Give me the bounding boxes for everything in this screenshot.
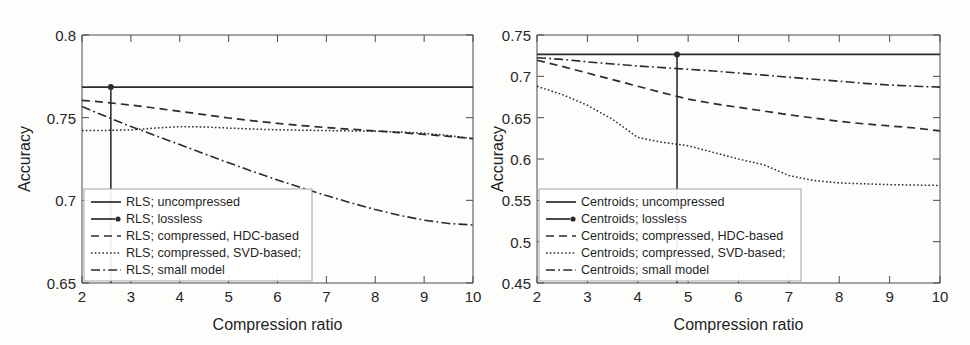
x-tick-label-left-4: 6 [273, 288, 281, 305]
x-tick-label-right-5: 7 [785, 288, 793, 305]
series-line-right-3 [537, 86, 940, 185]
y-axis-title-right: Accuracy [489, 126, 506, 192]
x-axis-title-right: Compression ratio [674, 316, 804, 333]
legend-label-left-0: RLS; uncompressed [126, 195, 240, 209]
legend-marker-dot-icon [115, 216, 120, 221]
x-tick-label-left-8: 10 [465, 288, 482, 305]
x-tick-label-right-3: 5 [684, 288, 692, 305]
legend-label-right-4: Centroids; small model [581, 263, 709, 277]
y-tick-label-right-4: 0.65 [502, 110, 531, 127]
legend-label-left-1: RLS; lossless [126, 212, 202, 226]
y-tick-label-right-0: 0.45 [502, 275, 531, 292]
y-tick-label-right-3: 0.6 [510, 151, 531, 168]
lossless-marker-dot-icon [674, 51, 680, 57]
x-tick-label-right-1: 3 [583, 288, 591, 305]
x-tick-label-left-3: 5 [224, 288, 232, 305]
legend-label-right-2: Centroids; compressed, HDC-based [581, 229, 783, 243]
x-tick-label-left-0: 2 [78, 288, 86, 305]
y-tick-label-right-1: 0.5 [510, 234, 531, 251]
legend-item-right-3[interactable]: Centroids; compressed, SVD-based; [546, 246, 785, 260]
x-tick-label-left-1: 3 [127, 288, 135, 305]
x-tick-label-left-7: 9 [420, 288, 428, 305]
series-line-left-2 [82, 100, 473, 138]
y-tick-label-left-3: 0.8 [55, 27, 76, 44]
y-tick-label-right-6: 0.75 [502, 27, 531, 44]
x-tick-label-right-6: 8 [835, 288, 843, 305]
chart-svg-left: 0.8 0.75 0.7 0.65 [0, 0, 485, 345]
chart-panel-left: 0.8 0.75 0.7 0.65 [0, 0, 485, 345]
figure-container: 0.8 0.75 0.7 0.65 [0, 0, 970, 345]
legend-marker-dot-icon [570, 216, 575, 221]
legend-label-left-2: RLS; compressed, HDC-based [126, 229, 299, 243]
y-axis-title-left: Accuracy [16, 126, 33, 192]
x-tick-label-right-4: 6 [734, 288, 742, 305]
y-tick-label-right-5: 0.7 [510, 68, 531, 85]
x-tick-label-left-5: 7 [322, 288, 330, 305]
lossless-marker-dot-icon [108, 84, 114, 90]
legend-label-left-4: RLS; small model [126, 263, 225, 277]
y-tick-label-left-0: 0.65 [47, 275, 76, 292]
x-tick-label-right-8: 10 [932, 288, 949, 305]
series-line-left-3 [82, 127, 473, 139]
series-line-right-4 [537, 58, 940, 87]
y-tick-label-right-2: 0.55 [502, 192, 531, 209]
chart-panel-right: 0.75 0.7 0.65 0.6 0.55 0.5 0.45 [485, 0, 970, 345]
x-tick-label-left-6: 8 [371, 288, 379, 305]
x-tick-label-left-2: 4 [176, 288, 184, 305]
legend-left: RLS; uncompressed RLS; lossless RLS; com… [84, 189, 312, 281]
x-tick-label-right-2: 4 [634, 288, 642, 305]
legend-item-right-2[interactable]: Centroids; compressed, HDC-based [546, 229, 783, 243]
legend-label-right-3: Centroids; compressed, SVD-based; [581, 246, 785, 260]
legend-right: Centroids; uncompressed Centroids; lossl… [539, 189, 801, 281]
y-tick-label-left-1: 0.7 [55, 192, 76, 209]
x-tick-label-right-0: 2 [533, 288, 541, 305]
legend-label-left-3: RLS; compressed, SVD-based; [126, 246, 301, 260]
y-tick-label-left-2: 0.75 [47, 110, 76, 127]
legend-label-right-1: Centroids; lossless [581, 212, 687, 226]
x-axis-title-left: Compression ratio [213, 316, 343, 333]
series-line-right-2 [537, 60, 940, 131]
chart-svg-right: 0.75 0.7 0.65 0.6 0.55 0.5 0.45 [485, 0, 970, 345]
legend-label-right-0: Centroids; uncompressed [581, 195, 725, 209]
x-tick-label-right-7: 9 [885, 288, 893, 305]
